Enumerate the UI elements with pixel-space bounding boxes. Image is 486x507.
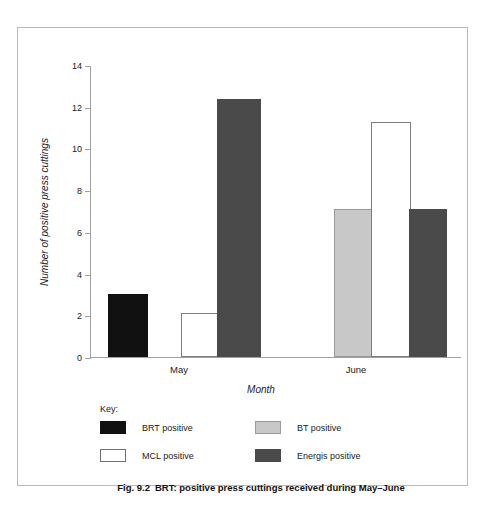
plot-area: 02468101214 bbox=[90, 66, 461, 358]
bar bbox=[371, 122, 411, 357]
bar bbox=[181, 313, 219, 357]
y-axis-tick-label: 14 bbox=[72, 62, 82, 71]
y-axis-tick-label: 0 bbox=[77, 354, 82, 363]
legend-label: Energis positive bbox=[297, 451, 361, 461]
bar bbox=[217, 99, 261, 357]
legend-swatch bbox=[255, 449, 281, 462]
bar bbox=[409, 209, 447, 357]
figure-number: Fig. 9.2 bbox=[117, 482, 150, 493]
figure-caption-text: BRT: positive press cuttings received du… bbox=[155, 482, 405, 493]
y-axis-tick-label: 8 bbox=[77, 187, 82, 196]
legend: Key: BRT positiveBT positiveMCL positive… bbox=[100, 404, 400, 477]
legend-swatch bbox=[100, 449, 126, 462]
legend-label: MCL positive bbox=[142, 451, 194, 461]
y-axis-title: Number of positive press cuttings bbox=[39, 138, 50, 286]
bar bbox=[334, 209, 373, 357]
y-axis-tick bbox=[85, 66, 91, 67]
legend-label: BRT positive bbox=[142, 423, 193, 433]
x-axis-category-label: May bbox=[170, 364, 188, 375]
legend-title: Key: bbox=[100, 404, 400, 414]
y-axis-tick bbox=[85, 191, 91, 192]
y-axis-tick bbox=[85, 149, 91, 150]
y-axis-tick-label: 6 bbox=[77, 228, 82, 237]
y-axis-tick bbox=[85, 358, 91, 359]
legend-label: BT positive bbox=[297, 423, 341, 433]
y-axis-tick bbox=[85, 108, 91, 109]
y-axis-tick-label: 12 bbox=[72, 103, 82, 112]
figure-caption: Fig. 9.2BRT: positive press cuttings rec… bbox=[18, 482, 486, 493]
y-axis-tick bbox=[85, 316, 91, 317]
bar bbox=[108, 294, 148, 357]
legend-swatch bbox=[100, 421, 126, 434]
plot-inner: 02468101214 bbox=[91, 66, 461, 357]
y-axis-tick-label: 10 bbox=[72, 145, 82, 154]
legend-item: BT positive bbox=[255, 421, 341, 434]
legend-item: BRT positive bbox=[100, 421, 193, 434]
y-axis-tick bbox=[85, 275, 91, 276]
legend-swatch bbox=[255, 421, 281, 434]
legend-entries: BRT positiveBT positiveMCL positiveEnerg… bbox=[100, 421, 400, 477]
legend-item: MCL positive bbox=[100, 449, 194, 462]
x-axis-category-label: June bbox=[346, 364, 367, 375]
y-axis-tick-label: 2 bbox=[77, 312, 82, 321]
figure-frame: Number of positive press cuttings 024681… bbox=[17, 27, 468, 486]
y-axis-tick bbox=[85, 233, 91, 234]
legend-item: Energis positive bbox=[255, 449, 361, 462]
y-axis-tick-label: 4 bbox=[77, 270, 82, 279]
x-axis-title: Month bbox=[18, 384, 486, 395]
